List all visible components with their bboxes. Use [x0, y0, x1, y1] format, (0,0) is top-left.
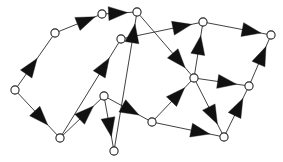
graph-node: [56, 134, 64, 142]
graph-node: [100, 92, 108, 100]
edge-arrowhead-icon: [101, 117, 115, 137]
edge-arrowhead-icon: [241, 23, 261, 37]
graph-node: [117, 35, 125, 43]
graph-node: [199, 18, 207, 26]
edge-arrowhead-icon: [167, 49, 185, 68]
edge-arrowhead-icon: [20, 58, 37, 78]
nodes-layer: [11, 8, 275, 155]
graph-node: [245, 82, 253, 90]
directed-graph-figure: [0, 0, 283, 162]
edge-arrowhead-icon: [217, 75, 237, 89]
edge-arrowhead-icon: [75, 17, 95, 31]
edge-arrowhead-icon: [93, 58, 109, 78]
graph-node: [98, 10, 106, 18]
graph-node: [148, 118, 156, 126]
graph-node: [110, 147, 118, 155]
edge-arrowhead-icon: [191, 36, 205, 56]
edge-arrowhead-icon: [252, 47, 266, 67]
graph-node: [267, 31, 275, 39]
edge-arrowhead-icon: [172, 21, 192, 35]
graph-canvas: [0, 0, 283, 162]
graph-node: [51, 29, 59, 37]
graph-edge: [156, 123, 220, 136]
graph-node: [220, 133, 228, 141]
edge-arrowhead-icon: [108, 7, 127, 21]
edge-arrowhead-icon: [125, 24, 139, 44]
graph-node: [190, 74, 198, 82]
graph-node: [133, 8, 141, 16]
edge-arrowhead-icon: [228, 98, 243, 118]
edge-arrowhead-icon: [190, 123, 210, 137]
graph-node: [11, 86, 19, 94]
edge-arrowhead-icon: [203, 104, 218, 124]
